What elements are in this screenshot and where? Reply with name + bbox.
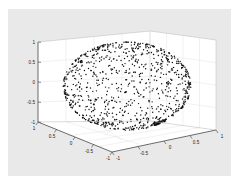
data-point — [155, 62, 156, 63]
data-point — [68, 72, 69, 73]
data-point — [126, 79, 127, 80]
data-point — [169, 103, 170, 104]
data-point — [111, 124, 112, 125]
data-point — [146, 127, 147, 128]
data-point — [70, 107, 71, 108]
data-point — [100, 125, 101, 126]
data-point — [119, 122, 120, 123]
data-point — [94, 115, 95, 116]
data-point — [104, 113, 105, 114]
data-point — [134, 44, 135, 45]
data-point — [156, 108, 157, 109]
data-point — [138, 128, 139, 129]
data-point — [109, 59, 110, 60]
x-tick-label: -0.5 — [85, 149, 93, 154]
data-point — [131, 41, 132, 42]
data-point — [124, 49, 125, 50]
data-point — [185, 101, 186, 102]
data-point — [72, 107, 73, 108]
data-point — [118, 56, 119, 57]
data-point — [131, 102, 132, 103]
data-point — [156, 49, 157, 50]
data-point — [69, 104, 70, 105]
data-point — [101, 97, 102, 98]
data-point — [120, 91, 121, 92]
data-point — [140, 107, 141, 108]
data-point — [112, 116, 113, 117]
data-point — [91, 117, 92, 118]
data-point — [75, 72, 76, 73]
data-point — [120, 108, 121, 109]
data-point — [148, 119, 149, 120]
data-point — [186, 89, 187, 90]
z-tick-label: -1 — [31, 120, 36, 125]
data-point — [167, 95, 168, 96]
data-point — [137, 62, 138, 63]
data-point — [187, 87, 188, 88]
data-point — [143, 49, 144, 50]
data-point — [71, 71, 72, 72]
data-point — [188, 89, 189, 90]
data-point — [156, 117, 157, 118]
data-point — [171, 69, 172, 70]
data-point — [151, 106, 152, 107]
data-point — [90, 87, 91, 88]
data-point — [78, 82, 79, 83]
data-point — [143, 89, 144, 90]
data-point — [188, 76, 189, 77]
data-point — [139, 46, 140, 47]
data-point — [115, 42, 116, 43]
data-point — [74, 78, 75, 79]
data-point — [136, 119, 137, 120]
data-point — [143, 125, 144, 126]
data-point — [106, 100, 107, 101]
data-point — [108, 51, 109, 52]
data-point — [93, 63, 94, 64]
data-point — [87, 120, 88, 121]
data-point — [81, 96, 82, 97]
data-point — [95, 67, 96, 68]
data-point — [95, 99, 96, 100]
data-point — [141, 64, 142, 65]
data-point — [151, 63, 152, 64]
data-point — [116, 114, 117, 115]
data-point — [154, 122, 155, 123]
data-point — [104, 50, 105, 51]
data-point — [173, 67, 174, 68]
data-point — [178, 61, 179, 62]
data-point — [172, 110, 173, 111]
data-point — [156, 80, 157, 81]
data-point — [84, 70, 85, 71]
data-point — [101, 45, 102, 46]
data-point — [181, 65, 182, 66]
data-point — [131, 80, 132, 81]
data-point — [138, 59, 139, 60]
data-point — [139, 82, 140, 83]
data-point — [132, 126, 133, 127]
data-point — [129, 83, 130, 84]
data-point — [139, 66, 140, 67]
data-point — [75, 69, 76, 70]
data-point — [87, 56, 88, 57]
data-point — [148, 79, 149, 80]
data-point — [94, 49, 95, 50]
data-point — [108, 101, 109, 102]
data-point — [148, 44, 149, 45]
data-point — [124, 129, 125, 130]
data-point — [72, 66, 73, 67]
data-point — [116, 60, 117, 61]
data-point — [154, 79, 155, 80]
data-point — [98, 84, 99, 85]
data-point — [117, 72, 118, 73]
data-point — [156, 89, 157, 90]
data-point — [74, 94, 75, 95]
data-point — [106, 122, 107, 123]
data-point — [178, 108, 179, 109]
data-point — [118, 46, 119, 47]
data-point — [177, 93, 178, 94]
data-point — [167, 109, 168, 110]
data-point — [138, 46, 139, 47]
data-point — [79, 57, 80, 58]
data-point — [178, 109, 179, 110]
data-point — [176, 100, 177, 101]
